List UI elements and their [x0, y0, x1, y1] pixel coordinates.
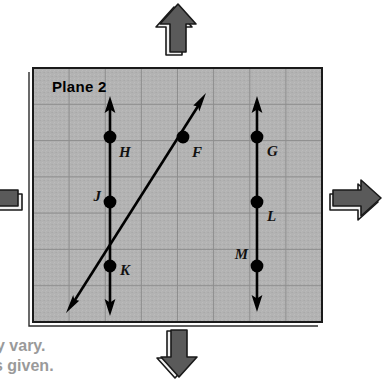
- plane-extend-arrow-down: [157, 330, 197, 378]
- point-F: [177, 131, 190, 144]
- caption-line-1: y vary.: [0, 337, 46, 354]
- point-label-K: K: [119, 262, 131, 278]
- plane-2: Plane 2: [29, 68, 322, 326]
- point-H: [104, 131, 117, 144]
- plane-extend-arrow-left: [0, 180, 22, 220]
- plane-extend-arrow-up: [156, 4, 196, 55]
- point-label-J: J: [93, 188, 102, 204]
- point-label-L: L: [266, 208, 276, 224]
- geometry-figure: Plane 2: [0, 0, 386, 380]
- point-K: [104, 260, 117, 273]
- plane-extend-arrow-right: [330, 180, 381, 220]
- point-label-F: F: [191, 144, 202, 160]
- plane-label: Plane 2: [52, 78, 107, 95]
- point-label-G: G: [267, 143, 278, 159]
- caption-line-2: s given.: [0, 357, 54, 374]
- point-label-M: M: [234, 246, 249, 262]
- figure-canvas: Plane 2: [0, 0, 386, 380]
- point-M: [251, 260, 264, 273]
- point-J: [104, 196, 117, 209]
- answer-caption: y vary. s given.: [0, 337, 54, 374]
- point-L: [251, 196, 264, 209]
- point-label-H: H: [118, 144, 132, 160]
- point-G: [251, 131, 264, 144]
